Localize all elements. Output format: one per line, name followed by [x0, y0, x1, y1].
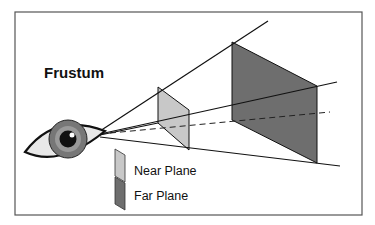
- legend-label-far-plane: Far Plane: [134, 189, 188, 203]
- near-plane: [158, 87, 189, 150]
- eye-icon: [25, 120, 105, 158]
- diagram-title: Frustum: [44, 64, 104, 81]
- legend-swatch-near-plane: [115, 149, 125, 182]
- legend-swatch-far-plane: [115, 177, 125, 210]
- legend-label-near-plane: Near Plane: [134, 164, 197, 178]
